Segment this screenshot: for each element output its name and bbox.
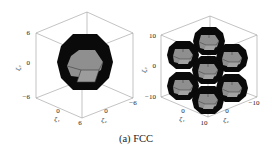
right-x-axis-label: ζ₁: [179, 115, 184, 123]
right-y-tick-neg10: −10: [249, 99, 260, 107]
left-y-axis-label: ζ₂: [101, 116, 107, 124]
right-x-tick-0: 0: [181, 107, 185, 115]
figure-caption: (a) FCC: [0, 133, 272, 144]
right-x-tick-10: 10: [201, 119, 209, 127]
left-z-tick-bottom: −6: [23, 93, 31, 101]
right-z-tick-mid: 0: [153, 62, 157, 70]
right-z-tick-bottom: −10: [145, 93, 156, 101]
left-x-tick-0: 0: [56, 107, 60, 115]
fcc-cluster: [167, 27, 248, 114]
left-z-axis-label: ζ₃: [14, 65, 22, 71]
left-x-axis-label: ζ₁: [54, 115, 59, 123]
left-panel: 6 0 −6 ζ₃ 0 ζ₁ 6 0 ζ₂ −6: [14, 12, 137, 127]
left-y-tick-neg6: −6: [129, 99, 137, 107]
left-z-tick-top: 6: [27, 29, 31, 37]
left-z-tick-mid: 0: [27, 59, 31, 67]
fcc-figure: 6 0 −6 ζ₃ 0 ζ₁ 6 0 ζ₂ −6: [0, 0, 272, 153]
right-panel: 10 0 −10 ζ₃ 0 ζ₁ 10 0 ζ₂ −10: [140, 16, 260, 127]
right-z-tick-top: 10: [149, 32, 157, 40]
right-y-tick-0: 0: [225, 107, 229, 115]
truncated-octahedron: [192, 86, 224, 114]
figure-canvas: 6 0 −6 ζ₃ 0 ζ₁ 6 0 ζ₂ −6: [0, 0, 272, 153]
right-y-axis-label: ζ₂: [223, 116, 229, 124]
left-y-tick-0: 0: [104, 107, 108, 115]
truncated-octahedron: [57, 34, 113, 90]
left-x-tick-6: 6: [78, 119, 82, 127]
right-z-axis-label: ζ₃: [140, 67, 148, 73]
